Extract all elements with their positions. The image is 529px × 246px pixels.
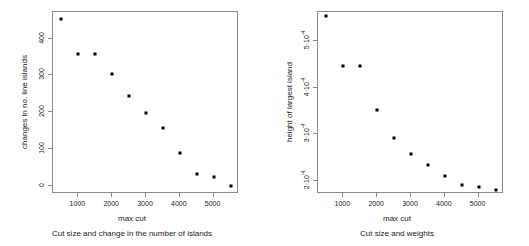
- x-axis-tick-label: 4000: [436, 200, 452, 207]
- data-point: [460, 184, 463, 187]
- y-axis-tick-label: 0: [38, 183, 45, 187]
- x-axis-tick: [342, 193, 343, 197]
- y-axis-tick-label: 2·10-4: [303, 171, 310, 189]
- data-point: [161, 126, 164, 129]
- x-axis-tick: [77, 193, 78, 197]
- x-axis-tick-label: 5000: [205, 200, 221, 207]
- x-axis-tick: [145, 193, 146, 197]
- y-axis-tick-label: 400: [38, 32, 45, 44]
- y-axis-tick: [48, 38, 52, 39]
- y-axis-tick-label: 300: [38, 69, 45, 81]
- x-axis-tick-label: 5000: [470, 200, 486, 207]
- y-axis-tick: [48, 111, 52, 112]
- data-point: [376, 109, 379, 112]
- y-axis-tick: [48, 185, 52, 186]
- data-point: [195, 173, 198, 176]
- data-point: [128, 95, 131, 98]
- y-axis-title-left: changes in no. line islands: [21, 55, 29, 149]
- x-axis-tick: [376, 193, 377, 197]
- data-point: [477, 185, 480, 188]
- y-axis-tick: [48, 74, 52, 75]
- y-axis-tick-label: 4·10-4: [303, 77, 310, 95]
- y-axis-tick: [313, 133, 317, 134]
- y-axis-title-right: height of largest island: [286, 62, 294, 142]
- data-point: [426, 163, 429, 166]
- scatter-points-left: [53, 12, 237, 192]
- x-axis-tick-label: 4000: [171, 200, 187, 207]
- scatter-points-right: [318, 12, 502, 192]
- y-axis-tick: [313, 180, 317, 181]
- panel-cut-size-vs-weights: 2·10-43·10-44·10-45·10-41000200030004000…: [265, 0, 529, 246]
- data-point: [77, 53, 80, 56]
- y-axis-tick: [313, 40, 317, 41]
- y-axis-tick-label: 5·10-4: [303, 31, 310, 49]
- data-point: [443, 174, 446, 177]
- panel-caption-left: Cut size and change in the number of isl…: [0, 230, 264, 238]
- panel-caption-right: Cut size and weights: [265, 230, 529, 238]
- figure-two-scatter-panels: 010020030040010002000300040005000 change…: [0, 0, 529, 246]
- y-axis-tick-label: 100: [38, 142, 45, 154]
- x-axis-tick-label: 3000: [137, 200, 153, 207]
- x-axis-tick-label: 2000: [368, 200, 384, 207]
- data-point: [212, 175, 215, 178]
- x-axis-tick: [444, 193, 445, 197]
- x-axis-tick-label: 1000: [70, 200, 86, 207]
- x-axis-tick: [410, 193, 411, 197]
- y-axis-tick-label: 200: [38, 105, 45, 117]
- data-point: [494, 188, 497, 191]
- y-axis-tick-label: 3·10-4: [303, 124, 310, 142]
- data-point: [325, 15, 328, 18]
- x-axis-tick-label: 3000: [402, 200, 418, 207]
- x-axis-tick-label: 1000: [335, 200, 351, 207]
- data-point: [229, 184, 232, 187]
- data-point: [145, 111, 148, 114]
- x-axis-title-left: max cut: [0, 215, 264, 223]
- data-point: [342, 64, 345, 67]
- x-axis-tick-label: 2000: [103, 200, 119, 207]
- x-axis-tick: [478, 193, 479, 197]
- data-point: [393, 137, 396, 140]
- plot-frame-left: [52, 11, 238, 193]
- data-point: [410, 153, 413, 156]
- data-point: [359, 64, 362, 67]
- x-axis-tick: [179, 193, 180, 197]
- plot-frame-right: [317, 11, 503, 193]
- x-axis-title-right: max cut: [265, 215, 529, 223]
- x-axis-tick: [213, 193, 214, 197]
- y-axis-tick: [313, 87, 317, 88]
- data-point: [178, 152, 181, 155]
- y-axis-tick: [48, 148, 52, 149]
- panel-cut-size-vs-island-changes: 010020030040010002000300040005000 change…: [0, 0, 264, 246]
- x-axis-tick: [111, 193, 112, 197]
- data-point: [60, 18, 63, 21]
- data-point: [94, 53, 97, 56]
- data-point: [111, 73, 114, 76]
